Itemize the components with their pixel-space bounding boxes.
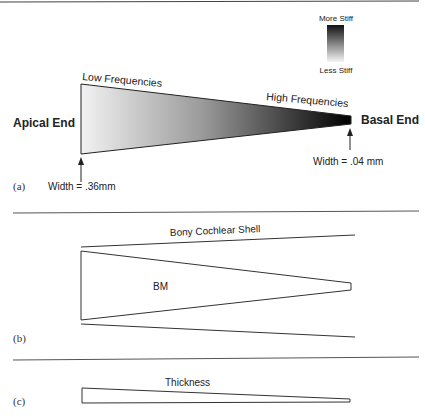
basal-end-label: Basal End xyxy=(361,113,419,127)
panel-b: Bony Cochlear Shell BM (b) xyxy=(13,223,355,345)
thickness-wedge xyxy=(82,388,350,403)
stiffness-less-label: Less Stiff xyxy=(320,66,354,75)
divider-ab xyxy=(13,211,419,213)
cochlea-diagram: More Stiff Less Stiff Low Frequencies Hi… xyxy=(0,0,425,417)
apical-width-arrow xyxy=(78,157,84,182)
thickness-label: Thickness xyxy=(165,377,210,388)
bony-shell-upper xyxy=(81,235,355,247)
panel-b-label: (b) xyxy=(13,332,26,345)
bm-label: BM xyxy=(153,281,168,292)
apical-width-label: Width = .36mm xyxy=(48,181,116,192)
basilar-membrane-outline xyxy=(81,251,351,320)
panel-c-label: (c) xyxy=(13,395,26,408)
apical-end-label: Apical End xyxy=(13,116,75,130)
divider-bc xyxy=(13,357,419,360)
basal-width-arrow xyxy=(347,128,353,150)
bony-shell-label: Bony Cochlear Shell xyxy=(170,223,261,238)
panel-a-label: (a) xyxy=(13,180,26,193)
bony-shell-lower xyxy=(81,324,355,337)
panel-c: Thickness (c) xyxy=(13,377,350,408)
stiffness-gradient-bar xyxy=(327,25,344,62)
high-frequencies-label: High Frequencies xyxy=(266,90,349,109)
panel-a: More Stiff Less Stiff Low Frequencies Hi… xyxy=(13,14,419,193)
stiffness-more-label: More Stiff xyxy=(319,14,354,23)
divider-top xyxy=(0,1,419,2)
basal-width-label: Width = .04 mm xyxy=(313,156,383,167)
